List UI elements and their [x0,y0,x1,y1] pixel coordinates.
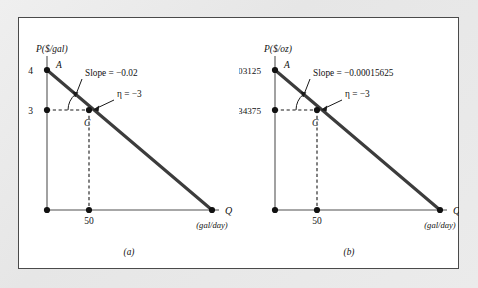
panel-b: P($/oz) 0.03125 0.0234375 A C Slope = −0… [239,18,459,270]
panel-b-point-c-label: C [312,118,319,128]
panel-a-plot: P($/gal) 4 3 A C Slope = −0.02 η = −3 50… [19,18,239,270]
panel-a-xtick-50-dot [86,207,92,213]
panel-b-slope-angle-arc [296,94,304,110]
panel-a-slope-angle-arc [68,94,76,110]
panel-b-plot: P($/oz) 0.03125 0.0234375 A C Slope = −0… [239,18,459,270]
panel-b-y-tick-top: 0.03125 [239,66,261,76]
panel-b-slope-label: Slope = −0.00015625 [313,68,394,78]
panel-b-origin-dot [272,207,278,213]
panel-b-point-c-dot [314,107,320,113]
panel-a: P($/gal) 4 3 A C Slope = −0.02 η = −3 50… [19,18,239,270]
panel-b-point-a-dot [272,67,278,73]
panel-b-y-tick-mid: 0.0234375 [239,106,261,116]
panel-a-point-c-dot [86,107,92,113]
panel-b-x-axis-unit: (gal/day) [424,220,456,230]
panel-b-x-tick-50: 50 [312,216,322,226]
figure-root: P($/gal) 4 3 A C Slope = −0.02 η = −3 50… [0,0,478,288]
panel-b-caption: (b) [344,247,355,258]
panel-b-elasticity-label: η = −3 [345,89,370,99]
panel-b-xtick-50-dot [314,207,320,213]
panel-a-y-axis-title: P($/gal) [35,44,68,55]
panel-a-slope-label: Slope = −0.02 [85,68,138,78]
panel-a-point-a-label: A [55,60,62,70]
panel-a-x-axis-label: Q [225,205,233,216]
panel-b-x-axis-label: Q [453,205,459,216]
panel-a-point-c-label: C [84,118,91,128]
panel-a-x-intercept-dot [209,207,215,213]
panel-a-point-a-dot [44,67,50,73]
figure-frame: P($/gal) 4 3 A C Slope = −0.02 η = −3 50… [18,17,459,269]
panel-a-ytick-3-dot [44,107,50,113]
panel-a-caption: (a) [124,247,135,258]
panel-a-elasticity-label: η = −3 [117,89,142,99]
panel-a-origin-dot [44,207,50,213]
panel-a-x-tick-50: 50 [84,216,94,226]
panel-b-x-intercept-dot [437,207,443,213]
panel-b-ytick-mid-dot [272,107,278,113]
panel-b-y-axis-title: P($/oz) [263,44,292,55]
panel-a-x-axis-unit: (gal/day) [196,220,228,230]
panel-b-point-a-label: A [283,60,290,70]
panel-a-y-tick-top: 4 [28,66,33,76]
panel-a-y-tick-mid: 3 [28,106,33,116]
